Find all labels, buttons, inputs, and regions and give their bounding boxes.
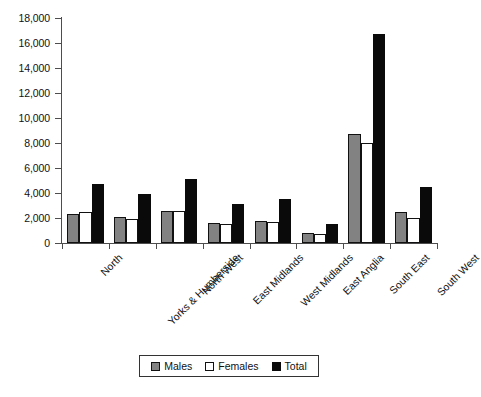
y-axis-tick xyxy=(55,18,61,19)
plot-area xyxy=(62,18,437,243)
legend-label: Males xyxy=(164,361,192,372)
x-axis-tick xyxy=(156,244,157,249)
bar-females xyxy=(173,211,185,243)
y-axis-tick-label: 4,000 xyxy=(4,188,50,198)
x-axis-tick xyxy=(390,244,391,249)
y-axis-tick xyxy=(55,193,61,194)
legend-item: Total xyxy=(272,361,307,372)
legend-swatch-females xyxy=(205,362,214,371)
legend-item: Males xyxy=(151,361,192,372)
bar-group xyxy=(114,18,151,243)
x-axis-tick xyxy=(203,244,204,249)
bar-females xyxy=(407,218,419,243)
y-axis-tick xyxy=(55,43,61,44)
bar-total xyxy=(373,34,385,243)
bar-total xyxy=(420,187,432,243)
y-axis-tick-label: 14,000 xyxy=(4,63,50,73)
bar-group xyxy=(208,18,245,243)
bar-females xyxy=(361,143,373,243)
bar-group xyxy=(395,18,432,243)
legend-swatch-total xyxy=(272,362,281,371)
x-axis-category-label: North West xyxy=(200,252,245,297)
bar-females xyxy=(314,234,326,243)
bar-group xyxy=(67,18,104,243)
bar-males xyxy=(302,233,314,243)
bar-total xyxy=(326,224,338,243)
x-axis-tick xyxy=(296,244,297,249)
bar-males xyxy=(208,223,220,243)
x-axis-category-label: North xyxy=(99,252,125,278)
x-axis-tick xyxy=(109,244,110,249)
y-axis-tick xyxy=(55,93,61,94)
y-axis-tick xyxy=(55,218,61,219)
x-axis-tick xyxy=(343,244,344,249)
bar-males xyxy=(255,221,267,244)
y-axis-tick-label: 6,000 xyxy=(4,163,50,173)
bar-males xyxy=(348,134,360,243)
bar-group xyxy=(255,18,292,243)
legend-item: Females xyxy=(205,361,258,372)
y-axis-tick-label: 2,000 xyxy=(4,213,50,223)
y-axis-tick-label: 10,000 xyxy=(4,113,50,123)
bar-total xyxy=(279,199,291,243)
y-axis-tick-label: 12,000 xyxy=(4,88,50,98)
bar-females xyxy=(126,219,138,243)
bar-total xyxy=(232,204,244,243)
y-axis-tick xyxy=(55,118,61,119)
y-axis-tick xyxy=(55,168,61,169)
y-axis-tick-label: 18,000 xyxy=(4,13,50,23)
bar-males xyxy=(114,217,126,243)
bar-group xyxy=(161,18,198,243)
legend-swatch-males xyxy=(151,362,160,371)
x-axis-category-label: South West xyxy=(435,252,481,298)
chart-legend: MalesFemalesTotal xyxy=(139,355,319,377)
bar-total xyxy=(185,179,197,243)
y-axis-tick-label: 8,000 xyxy=(4,138,50,148)
y-axis-tick xyxy=(55,68,61,69)
bar-females xyxy=(79,212,91,243)
bar-females xyxy=(220,224,232,243)
y-axis-tick xyxy=(55,143,61,144)
x-axis-tick xyxy=(437,244,438,249)
x-axis-tick xyxy=(62,244,63,249)
bar-males xyxy=(161,211,173,244)
bar-group xyxy=(348,18,385,243)
y-axis-tick-label: 16,000 xyxy=(4,38,50,48)
bar-females xyxy=(267,222,279,243)
bar-group xyxy=(302,18,339,243)
bar-total xyxy=(92,184,104,243)
x-axis-category-label: East Midlands xyxy=(251,252,305,306)
legend-label: Total xyxy=(285,361,307,372)
legend-label: Females xyxy=(218,361,258,372)
bar-males xyxy=(67,214,79,243)
y-axis-tick xyxy=(55,243,61,244)
bar-males xyxy=(395,212,407,243)
y-axis-tick-label: 0 xyxy=(4,238,50,248)
x-axis-category-label: South East xyxy=(387,252,431,296)
x-axis-tick xyxy=(250,244,251,249)
bar-total xyxy=(138,194,150,243)
